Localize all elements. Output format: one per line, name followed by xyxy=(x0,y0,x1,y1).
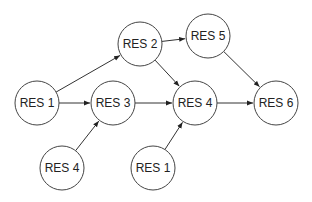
node-label: RES 5 xyxy=(191,29,226,43)
edge-arrow xyxy=(162,39,185,42)
node-label: RES 1 xyxy=(20,96,55,110)
graph-node: RES 1 xyxy=(15,81,59,125)
edge-arrow xyxy=(224,51,260,86)
edge-arrow xyxy=(155,60,179,86)
nodes: RES 2RES 5RES 1RES 3RES 4RES 6RES 4RES 1 xyxy=(15,14,298,190)
node-label: RES 6 xyxy=(259,96,294,110)
node-label: RES 4 xyxy=(178,96,213,110)
dependency-graph: RES 2RES 5RES 1RES 3RES 4RES 6RES 4RES 1 xyxy=(0,0,312,202)
node-label: RES 4 xyxy=(45,161,80,175)
node-label: RES 3 xyxy=(96,96,131,110)
graph-node: RES 2 xyxy=(118,22,162,66)
graph-node: RES 4 xyxy=(40,146,84,190)
graph-node: RES 5 xyxy=(186,14,230,58)
edge-arrow xyxy=(76,121,99,151)
node-label: RES 1 xyxy=(136,161,171,175)
graph-node: RES 6 xyxy=(254,81,298,125)
node-label: RES 2 xyxy=(123,37,158,51)
graph-node: RES 1 xyxy=(131,146,175,190)
graph-node: RES 3 xyxy=(91,81,135,125)
edge-arrow xyxy=(165,122,183,149)
graph-node: RES 4 xyxy=(173,81,217,125)
